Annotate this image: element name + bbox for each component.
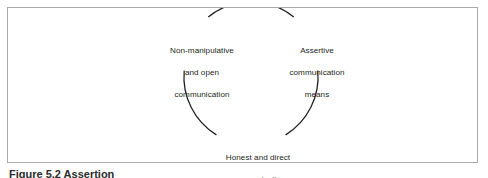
node-label-line: Honest and direct: [197, 152, 319, 163]
node-label-line: communication: [262, 67, 372, 78]
node-label-line: means: [262, 89, 372, 100]
node-label-line: and open: [143, 67, 261, 78]
node-label-line: communication: [143, 89, 261, 100]
node-label-line: Assertive: [262, 45, 372, 56]
node-label-assertive: Assertive communication means: [262, 34, 372, 111]
node-label-non-manipulative: Non-manipulative and open communication: [143, 34, 261, 111]
figure-frame: Non-manipulative and open communication …: [7, 7, 478, 163]
node-label-line: Non-manipulative: [143, 45, 261, 56]
figure-caption: Figure 5.2 Assertion: [9, 168, 309, 178]
figure-container: Non-manipulative and open communication …: [0, 0, 488, 178]
top-arc: [209, 8, 294, 17]
